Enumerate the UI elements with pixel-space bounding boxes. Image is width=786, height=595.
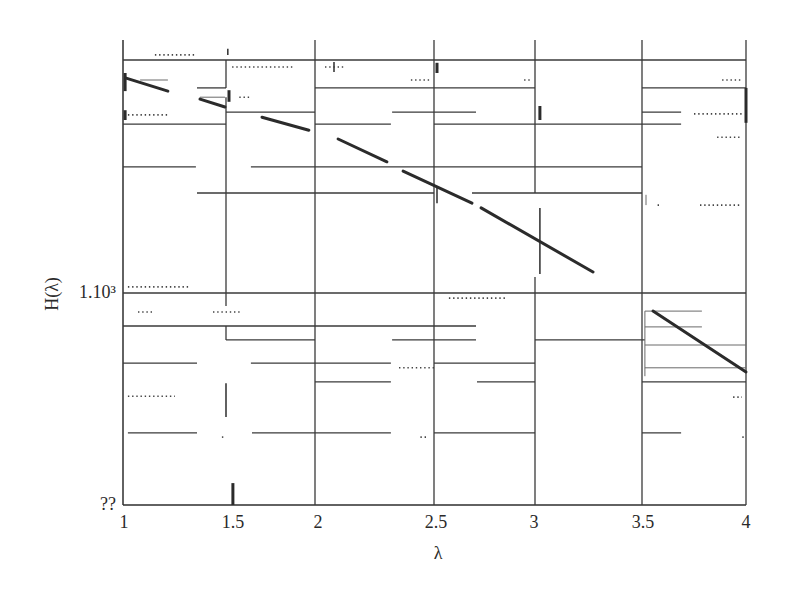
x-tick-label-4: 4: [726, 512, 766, 532]
y-tick-label-bottom: ??: [56, 494, 116, 514]
curve-segment: [338, 139, 387, 162]
x-axis-label: λ: [428, 543, 448, 563]
x-tick-label-3: 3: [514, 512, 554, 532]
curve-segment: [481, 208, 593, 272]
plot-area: [0, 0, 786, 595]
curve-segment: [262, 117, 309, 130]
curve-segment: [653, 311, 746, 372]
x-tick-label-1: 1: [104, 512, 144, 532]
x-tick-label-1-5: 1.5: [213, 512, 253, 532]
y-tick-label-1e3: 1.10³: [56, 282, 116, 302]
x-tick-label-2: 2: [298, 512, 338, 532]
x-tick-label-2-5: 2.5: [416, 512, 456, 532]
curve-segment: [200, 99, 225, 107]
x-tick-label-3-5: 3.5: [623, 512, 663, 532]
chart-figure: H(λ) 1.10³ ?? 1 1.5 2 2.5 3 3.5 4 λ: [0, 0, 786, 595]
